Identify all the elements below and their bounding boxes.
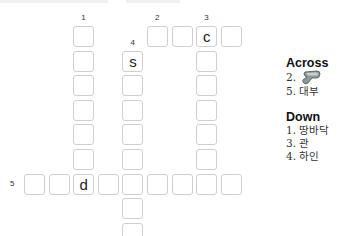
crossword-grid: csd12345 [0, 0, 270, 236]
grid-cell-r6-c5[interactable] [147, 174, 168, 195]
grid-cell-r3-c4[interactable] [122, 100, 143, 121]
clue-number-3: 3 [204, 13, 208, 22]
grid-cell-r6-c8[interactable] [221, 174, 242, 195]
grid-cell-r1-c2[interactable] [73, 51, 94, 72]
grid-cell-r6-c1[interactable] [49, 174, 70, 195]
grid-cell-r0-c8[interactable] [221, 26, 242, 47]
grid-cell-r2-c7[interactable] [196, 75, 217, 96]
grid-cell-r4-c4[interactable] [122, 124, 143, 145]
down-clue-3: 3. 관 [286, 137, 337, 150]
grid-cell-r6-c7[interactable] [196, 174, 217, 195]
across-heading: Across [286, 56, 337, 70]
clue-number-5: 5 [10, 179, 14, 188]
hammer-icon [299, 70, 321, 85]
grid-cell-r0-c7[interactable]: c [196, 26, 217, 47]
grid-cell-r5-c7[interactable] [196, 149, 217, 170]
grid-cell-r3-c7[interactable] [196, 100, 217, 121]
grid-cell-r6-c6[interactable] [172, 174, 193, 195]
grid-cell-r2-c2[interactable] [73, 75, 94, 96]
grid-cell-r3-c2[interactable] [73, 100, 94, 121]
down-clue-4: 4. 하인 [286, 150, 337, 163]
grid-cell-r6-c2[interactable]: d [73, 174, 94, 195]
grid-cell-r1-c4[interactable]: s [122, 51, 143, 72]
clue-number-1: 1 [81, 13, 85, 22]
grid-cell-r0-c2[interactable] [73, 26, 94, 47]
grid-cell-r0-c6[interactable] [172, 26, 193, 47]
grid-cell-r6-c0[interactable] [24, 174, 45, 195]
grid-cell-r4-c2[interactable] [73, 124, 94, 145]
across-clue-2: 2. [286, 70, 337, 85]
across-clue-5: 5. 대부 [286, 85, 337, 98]
down-heading: Down [286, 110, 337, 124]
grid-cell-r1-c7[interactable] [196, 51, 217, 72]
grid-cell-r4-c7[interactable] [196, 124, 217, 145]
grid-cell-r5-c2[interactable] [73, 149, 94, 170]
down-clue-1: 1. 땅바닥 [286, 124, 337, 137]
clues-panel: Across 2. 5. 대부 Down 1. 땅바닥 3. 관 4. 하인 [286, 56, 337, 163]
grid-cell-r0-c5[interactable] [147, 26, 168, 47]
clue-number-4: 4 [130, 38, 134, 47]
grid-cell-r7-c4[interactable] [122, 198, 143, 219]
grid-cell-r8-c4[interactable] [122, 223, 143, 236]
grid-cell-r6-c4[interactable] [122, 174, 143, 195]
grid-cell-r6-c3[interactable] [98, 174, 119, 195]
clue-number-2: 2 [155, 13, 159, 22]
grid-cell-r5-c4[interactable] [122, 149, 143, 170]
grid-cell-r2-c4[interactable] [122, 75, 143, 96]
